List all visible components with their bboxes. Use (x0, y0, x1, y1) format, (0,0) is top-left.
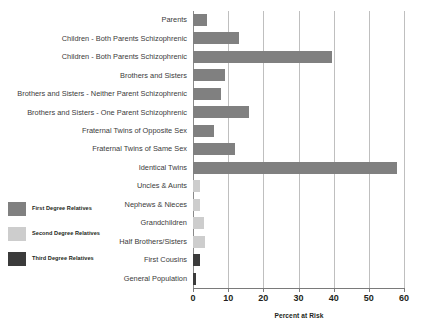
bar-row (193, 214, 404, 232)
chart-title (0, 0, 424, 3)
legend-label: First Degree Relatives (32, 205, 92, 211)
bar-row (193, 11, 404, 29)
bar (193, 14, 207, 26)
legend-swatch (8, 227, 26, 241)
x-tick-label: 20 (248, 293, 278, 303)
bar (193, 69, 225, 81)
bar (193, 51, 332, 63)
bar-row (193, 270, 404, 288)
bar-row (193, 66, 404, 84)
bar-row (193, 122, 404, 140)
bar (193, 180, 200, 192)
bar (193, 106, 249, 118)
bar-row (193, 48, 404, 66)
legend-item[interactable]: Second Degree Relatives (8, 227, 112, 252)
bar-row (193, 103, 404, 121)
y-axis-label: Children - Both Parents Schizophrenic (62, 34, 187, 43)
bar-row (193, 85, 404, 103)
legend-item[interactable]: Third Degree Relatives (8, 252, 112, 277)
legend-swatch (8, 202, 26, 216)
bar-row (193, 251, 404, 269)
legend-item[interactable]: First Degree Relatives (8, 202, 112, 227)
y-axis-label: Grandchildren (141, 218, 187, 227)
tickmark-40 (334, 288, 335, 292)
legend: First Degree RelativesSecond Degree Rela… (8, 202, 112, 277)
y-axis-label: General Population (124, 274, 187, 283)
y-axis-label: First Cousins (144, 255, 187, 264)
y-axis-label: Fraternal Twins of Opposite Sex (82, 126, 187, 135)
x-tick-label: 60 (389, 293, 419, 303)
bar (193, 143, 235, 155)
tickmark-50 (369, 288, 370, 292)
bar-row (193, 140, 404, 158)
y-axis-label: Fraternal Twins of Same Sex (92, 144, 187, 153)
bar (193, 162, 397, 174)
y-axis-label: Nephews & Nieces (125, 200, 187, 209)
x-axis-title: Percent at Risk (193, 312, 405, 319)
bar (193, 254, 200, 266)
tickmark-10 (228, 288, 229, 292)
bar-row (193, 233, 404, 251)
bar (193, 217, 204, 229)
x-tick-label: 0 (178, 293, 208, 303)
y-axis-label: Parents (162, 15, 187, 24)
bar (193, 32, 239, 44)
y-axis-label: Half Brothers/Sisters (119, 237, 187, 246)
bar-row (193, 159, 404, 177)
bar-row (193, 29, 404, 47)
y-axis-label: Brothers and Sisters - Neither Parent Sc… (17, 89, 187, 98)
y-axis-label: Children - Both Parents Schizophrenic (62, 52, 187, 61)
bar (193, 199, 200, 211)
bar (193, 88, 221, 100)
x-tick-label: 30 (284, 293, 314, 303)
gridline-60 (404, 11, 405, 288)
tickmark-30 (299, 288, 300, 292)
bar-row (193, 177, 404, 195)
y-axis-label: Uncles & Aunts (137, 181, 187, 190)
y-axis-label: Brothers and Sisters (120, 71, 187, 80)
legend-label: Third Degree Relatives (32, 255, 94, 261)
tickmark-0 (193, 288, 194, 292)
bar-row (193, 196, 404, 214)
tickmark-20 (263, 288, 264, 292)
bar (193, 236, 205, 248)
x-tick-label: 10 (213, 293, 243, 303)
x-tick-label: 50 (354, 293, 384, 303)
bar (193, 125, 214, 137)
plot-area (193, 11, 404, 288)
legend-swatch (8, 252, 26, 266)
legend-label: Second Degree Relatives (32, 230, 100, 236)
x-tick-label: 40 (319, 293, 349, 303)
y-axis-label: Identical Twins (139, 163, 187, 172)
tickmark-60 (404, 288, 405, 292)
bar (193, 273, 196, 285)
bar-chart: ParentsChildren - Both Parents Schizophr… (0, 0, 424, 326)
y-axis-label: Brothers and Sisters - One Parent Schizo… (27, 108, 187, 117)
